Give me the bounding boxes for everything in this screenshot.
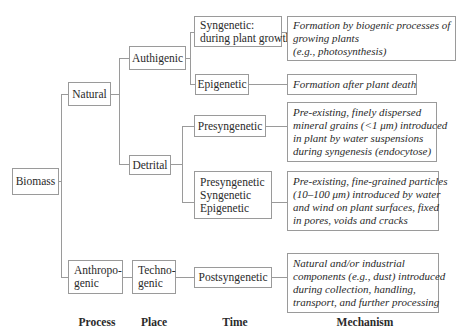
node-label: Detrital (132, 159, 167, 172)
node-label-line: Techno- (138, 264, 170, 277)
connector (190, 32, 191, 84)
connector (119, 164, 129, 165)
node-label-line: Anthropo- (74, 264, 117, 277)
node-detrital: Detrital (129, 155, 171, 175)
connector (175, 277, 194, 278)
mechanism-line: Formation by biogenic processes of (293, 19, 450, 32)
mechanism-presyngenetic: Pre-existing, finely dispersed mineral g… (287, 102, 437, 162)
node-presyngenetic: Presyngenetic (194, 115, 266, 137)
mechanism-line: during collection, handling, (293, 283, 433, 296)
node-label: Presyngenetic (198, 120, 263, 133)
mechanism-line: Natural and/or industrial (293, 257, 433, 270)
connector (182, 202, 194, 203)
node-natural: Natural (68, 82, 111, 106)
mechanism-line: components (e.g., dust) introduced (293, 270, 433, 283)
connector (171, 164, 182, 165)
node-label: Natural (72, 88, 106, 101)
node-biomass: Biomass (12, 168, 59, 195)
connector (119, 58, 120, 164)
mechanism-postsyngenetic: Natural and/or industrial components (e.… (287, 253, 439, 313)
mechanism-line: (10–100 μm) introduced by water (293, 188, 433, 201)
connector (61, 94, 62, 277)
node-syngenetic: Syngenetic: during plant growth (194, 16, 282, 47)
node-anthropogenic: Anthropo- genic (68, 260, 123, 294)
node-label-line: during plant growth (200, 32, 276, 45)
axis-label-place: Place (132, 316, 176, 328)
axis-label-process: Process (72, 316, 122, 328)
mechanism-line: Pre-existing, fine-grained particles (293, 175, 433, 188)
connector (119, 58, 129, 59)
connector (265, 126, 287, 127)
node-label-line: genic (138, 277, 170, 290)
mechanism-line: growing plants (293, 32, 450, 45)
connector (182, 126, 183, 202)
connector (182, 126, 194, 127)
node-label-line: Epigenetic (200, 202, 266, 215)
node-epigenetic: Epigenetic (195, 74, 249, 95)
mechanism-epigenetic: Formation after plant death (287, 74, 417, 95)
axis-label-time: Time (215, 316, 255, 328)
axis-label-mechanism: Mechanism (325, 316, 405, 328)
node-label: Epigenetic (197, 78, 246, 91)
node-technogenic: Techno- genic (132, 260, 176, 294)
connector (123, 277, 132, 278)
mechanism-line: mineral grains (<1 μm) introduced (293, 119, 431, 132)
node-label-line: Syngenetic: (200, 19, 276, 32)
node-label: Biomass (16, 175, 56, 188)
node-label-line: Presyngenetic (200, 176, 266, 189)
node-label: Authigenic (132, 52, 183, 65)
mechanism-line: and wind on plant surfaces, fixed (293, 201, 433, 214)
connector (111, 94, 119, 95)
mechanism-line: during syngenesis (endocytose) (293, 145, 431, 158)
node-postsyngenetic: Postsyngenetic (194, 267, 272, 288)
connector (61, 277, 68, 278)
mechanism-presyn-syn-epi: Pre-existing, fine-grained particles (10… (287, 171, 439, 231)
node-label-line: genic (74, 277, 117, 290)
mechanism-line: Formation after plant death (293, 78, 411, 91)
mechanism-line: in pores, voids and cracks (293, 214, 433, 227)
mechanism-syngenetic: Formation by biogenic processes of growi… (287, 16, 456, 61)
node-presyn-syn-epi: Presyngenetic Syngenetic Epigenetic (194, 171, 272, 219)
mechanism-line: transport, and further processing (293, 296, 433, 309)
connector (271, 277, 287, 278)
node-authigenic: Authigenic (129, 46, 186, 70)
mechanism-line: (e.g., photosynthesis) (293, 45, 450, 58)
connector (248, 84, 287, 85)
connector (271, 202, 287, 203)
connector (61, 94, 68, 95)
mechanism-line: Pre-existing, finely dispersed (293, 106, 431, 119)
node-label: Postsyngenetic (199, 271, 268, 284)
node-label-line: Syngenetic (200, 189, 266, 202)
mechanism-line: in plant by water suspensions (293, 132, 431, 145)
